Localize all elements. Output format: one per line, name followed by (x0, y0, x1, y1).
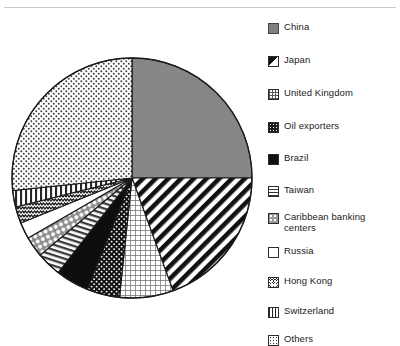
legend-item-united-kingdom[interactable]: United Kingdom (268, 88, 400, 100)
legend-label: Japan (284, 55, 310, 66)
legend-item-brazil[interactable]: Brazil (268, 153, 400, 165)
pie-slice-china[interactable] (132, 58, 252, 178)
legend-item-china[interactable]: China (268, 22, 400, 34)
legend-swatch-brazil (268, 154, 279, 165)
pie-chart-svg (0, 0, 262, 341)
legend-label: Brazil (284, 153, 308, 164)
legend-swatch-hong-kong (268, 277, 279, 288)
legend-label: Others (284, 334, 313, 345)
legend-item-caribbean-banking-centers[interactable]: Caribbean banking centers (268, 212, 400, 233)
legend-swatch-switzerland (268, 307, 279, 318)
legend-item-russia[interactable]: Russia (268, 246, 400, 258)
legend-item-oil-exporters[interactable]: Oil exporters (268, 121, 400, 133)
legend-item-switzerland[interactable]: Switzerland (268, 306, 400, 318)
legend-item-others[interactable]: Others (268, 334, 400, 346)
legend-label: China (284, 22, 309, 33)
legend-swatch-taiwan (268, 186, 279, 197)
legend-label: Caribbean banking centers (284, 212, 365, 233)
legend-item-taiwan[interactable]: Taiwan (268, 185, 400, 197)
legend-swatch-china (268, 23, 279, 34)
legend-label: Russia (284, 246, 314, 257)
legend-swatch-oil-exporters (268, 122, 279, 133)
legend-swatch-others (268, 335, 279, 346)
legend-label: Oil exporters (284, 121, 339, 132)
legend-swatch-caribbean-banking-centers (268, 213, 279, 224)
legend-item-japan[interactable]: Japan (268, 55, 400, 67)
legend-label: Switzerland (284, 306, 334, 317)
legend-swatch-united-kingdom (268, 89, 279, 100)
legend-item-hong-kong[interactable]: Hong Kong (268, 276, 400, 288)
pie-slices (12, 58, 252, 298)
legend-label: Hong Kong (284, 276, 332, 287)
legend-label: United Kingdom (284, 88, 353, 99)
pie-slice-others[interactable] (12, 58, 132, 191)
pie-chart (0, 0, 262, 341)
legend-label: Taiwan (284, 185, 314, 196)
chart-legend: ChinaJapanUnited KingdomOil exportersBra… (268, 10, 400, 335)
legend-swatch-japan (268, 56, 279, 67)
legend-swatch-russia (268, 247, 279, 258)
